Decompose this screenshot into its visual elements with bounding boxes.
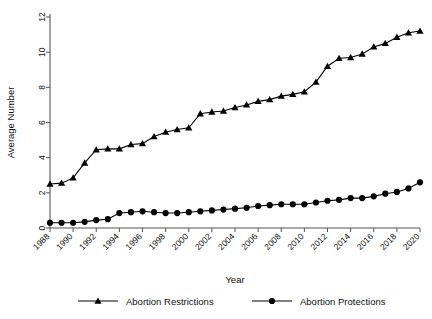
axes (50, 14, 420, 228)
x-tick-label-2018: 2018 (378, 231, 399, 252)
x-tick-label-2016: 2016 (355, 231, 376, 252)
legend-label: Abortion Restrictions (126, 296, 214, 307)
triangle-marker (139, 140, 146, 146)
circle-marker (267, 202, 273, 208)
y-tick-label-6: 6 (37, 120, 47, 125)
y-tick-label-12: 12 (37, 12, 47, 22)
series-abortion-protections (47, 179, 423, 226)
y-tick-label-0: 0 (37, 225, 47, 230)
chart-legend: Abortion RestrictionsAbortion Protection… (78, 296, 386, 307)
y-tick-label-4: 4 (37, 155, 47, 160)
circle-marker (348, 195, 354, 201)
circle-marker (382, 191, 388, 197)
circle-marker (209, 207, 215, 213)
circle-marker (47, 220, 53, 226)
circle-marker (93, 217, 99, 223)
circle-marker (359, 195, 365, 201)
circle-marker (186, 209, 192, 215)
y-tick-labels: 024681012 (37, 12, 47, 230)
series-line (50, 182, 420, 222)
x-tick-label-1994: 1994 (100, 231, 121, 252)
circle-marker (278, 201, 284, 207)
circle-marker (243, 205, 249, 211)
legend-label: Abortion Protections (300, 296, 386, 307)
line-chart: 024681012 198819901992199419961998200020… (0, 0, 432, 319)
circle-marker (405, 185, 411, 191)
circle-marker (174, 210, 180, 216)
circle-marker (255, 203, 261, 209)
x-tick-label-1990: 1990 (54, 231, 75, 252)
circle-marker (301, 201, 307, 207)
circle-marker (163, 210, 169, 216)
x-tick-label-1992: 1992 (77, 231, 98, 252)
x-tick-labels: 1988199019921994199619982000200220042006… (31, 231, 422, 252)
circle-marker (151, 209, 157, 215)
circle-marker (58, 220, 64, 226)
circle-marker (116, 210, 122, 216)
circle-marker (70, 220, 76, 226)
circle-marker (105, 216, 111, 222)
triangle-marker (416, 27, 423, 33)
x-tick-label-2004: 2004 (216, 231, 237, 252)
circle-marker (197, 208, 203, 214)
x-tick-label-2010: 2010 (285, 231, 306, 252)
y-tick-label-2: 2 (37, 190, 47, 195)
legend-item-2[interactable]: Abortion Protections (252, 296, 386, 307)
x-tick-label-2008: 2008 (262, 231, 283, 252)
y-tick-label-10: 10 (37, 47, 47, 57)
circle-marker (313, 199, 319, 205)
circle-marker (290, 201, 296, 207)
x-tick-label-2006: 2006 (239, 231, 260, 252)
circle-marker (82, 219, 88, 225)
circle-marker (336, 197, 342, 203)
x-tick-label-2014: 2014 (332, 231, 353, 252)
circle-marker (371, 193, 377, 199)
triangle-marker (324, 63, 331, 69)
x-tick-label-2002: 2002 (193, 231, 214, 252)
circle-marker (139, 208, 145, 214)
circle-marker (128, 209, 134, 215)
y-axis-title: Average Number (5, 87, 16, 159)
y-tick-label-8: 8 (37, 85, 47, 90)
axis-titles: YearAverage Number (5, 87, 245, 285)
series-abortion-restrictions (46, 27, 423, 186)
circle-marker (417, 179, 423, 185)
chart-container: 024681012 198819901992199419961998200020… (0, 0, 432, 319)
x-axis-title: Year (225, 274, 244, 285)
triangle-marker (382, 40, 389, 46)
data-series (46, 27, 423, 225)
x-tick-label-2000: 2000 (170, 231, 191, 252)
circle-marker (394, 189, 400, 195)
circle-marker (232, 206, 238, 212)
x-tick-label-2012: 2012 (308, 231, 329, 252)
circle-marker (220, 206, 226, 212)
x-tick-label-1998: 1998 (147, 231, 168, 252)
x-tick-label-2020: 2020 (401, 231, 422, 252)
legend-item-1[interactable]: Abortion Restrictions (78, 296, 214, 307)
x-tick-label-1996: 1996 (123, 231, 144, 252)
circle-marker (269, 298, 275, 304)
triangle-marker (58, 180, 65, 186)
triangle-marker (359, 50, 366, 56)
x-tick-label-1988: 1988 (31, 231, 52, 252)
circle-marker (324, 198, 330, 204)
